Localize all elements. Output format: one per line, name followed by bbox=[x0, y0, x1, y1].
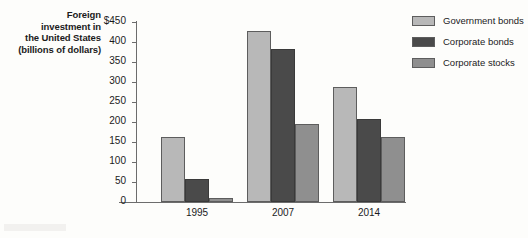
bar-group-1995 bbox=[161, 22, 233, 202]
bar-group-2007 bbox=[247, 22, 319, 202]
bar-1995-government-bonds bbox=[161, 137, 185, 202]
bar-2007-government-bonds bbox=[247, 31, 271, 202]
y-axis-title-line-3: the United States bbox=[6, 32, 101, 44]
legend-swatch bbox=[412, 16, 435, 26]
y-tick-label: $450 bbox=[104, 15, 126, 26]
y-tick-label: 300 bbox=[109, 75, 126, 86]
bar-2014-corporate-stocks bbox=[381, 137, 405, 202]
y-axis-title-line-2: investment in bbox=[6, 21, 101, 33]
y-tick-label: 50 bbox=[115, 175, 126, 186]
y-tick-label: 400 bbox=[109, 35, 126, 46]
bar-1995-corporate-stocks bbox=[209, 198, 233, 202]
legend-swatch bbox=[412, 37, 435, 47]
bar-2014-corporate-bonds bbox=[357, 119, 381, 202]
y-tick-label: 150 bbox=[109, 135, 126, 146]
plot-area bbox=[137, 22, 405, 202]
x-axis-label-2014: 2014 bbox=[339, 207, 399, 218]
bar-2007-corporate-bonds bbox=[271, 49, 295, 202]
legend-label: Corporate stocks bbox=[443, 57, 515, 68]
bar-2014-government-bonds bbox=[333, 87, 357, 202]
legend-item-corporate-bonds: Corporate bonds bbox=[412, 31, 524, 52]
x-axis-line bbox=[119, 202, 406, 203]
y-axis-title: Foreign investment in the United States … bbox=[6, 9, 101, 55]
x-axis-label-2007: 2007 bbox=[253, 207, 313, 218]
x-axis-label-1995: 1995 bbox=[167, 207, 227, 218]
legend-item-corporate-stocks: Corporate stocks bbox=[412, 52, 524, 73]
y-tick-mark bbox=[132, 202, 137, 203]
y-tick-label: 200 bbox=[109, 115, 126, 126]
legend-swatch bbox=[412, 58, 435, 68]
y-tick-label: 350 bbox=[109, 55, 126, 66]
bar-2007-corporate-stocks bbox=[295, 124, 319, 202]
y-tick-label: 250 bbox=[109, 95, 126, 106]
bar-1995-corporate-bonds bbox=[185, 179, 209, 202]
legend-label: Government bonds bbox=[443, 15, 524, 26]
y-axis-title-line-4: (billions of dollars) bbox=[6, 44, 101, 56]
legend-label: Corporate bonds bbox=[443, 36, 514, 47]
bar-chart-figure: Foreign investment in the United States … bbox=[0, 0, 528, 238]
chart-legend: Government bondsCorporate bondsCorporate… bbox=[412, 10, 524, 73]
y-tick-label: 0 bbox=[120, 195, 126, 206]
y-tick-label: 100 bbox=[109, 155, 126, 166]
y-axis-title-line-1: Foreign bbox=[6, 9, 101, 21]
scan-artifact bbox=[4, 224, 66, 231]
legend-item-government-bonds: Government bonds bbox=[412, 10, 524, 31]
bar-group-2014 bbox=[333, 22, 405, 202]
